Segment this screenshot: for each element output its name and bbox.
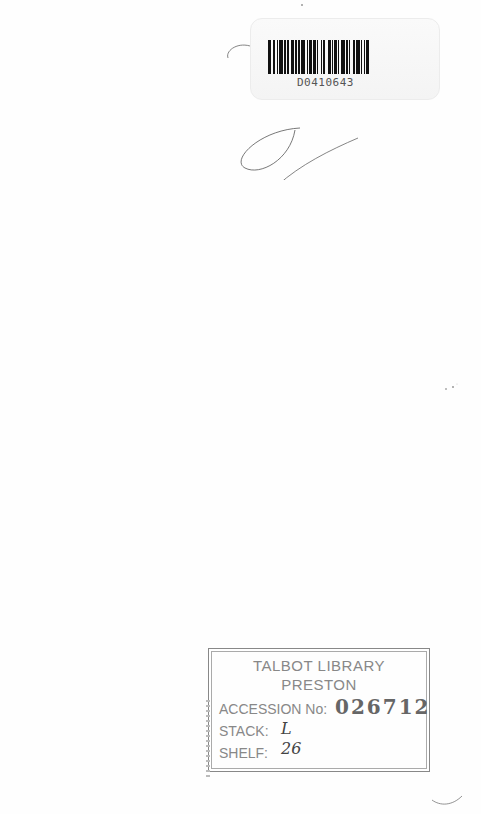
book-endpaper: D0410643 TALBOT LIBRARY PRESTON ACCESSIO… bbox=[0, 0, 481, 814]
stamp-location: PRESTON bbox=[209, 676, 429, 693]
accession-number: 026712 bbox=[335, 695, 431, 719]
pencil-mark bbox=[430, 790, 470, 810]
barcode bbox=[268, 40, 412, 74]
stack-label: STACK: bbox=[219, 723, 269, 739]
shelf-label: SHELF: bbox=[219, 745, 268, 761]
accession-label: ACCESSION No: bbox=[219, 701, 327, 717]
speck-mark bbox=[301, 4, 303, 6]
shelf-value: 26 bbox=[281, 739, 301, 758]
stamp-edge-dots bbox=[206, 700, 210, 780]
barcode-number: D0410643 bbox=[297, 76, 354, 89]
stamp-library-name: TALBOT LIBRARY bbox=[209, 657, 429, 674]
stack-value: L bbox=[281, 719, 292, 738]
library-stamp: TALBOT LIBRARY PRESTON ACCESSION No: 026… bbox=[208, 648, 430, 772]
speck-marks bbox=[440, 380, 470, 400]
